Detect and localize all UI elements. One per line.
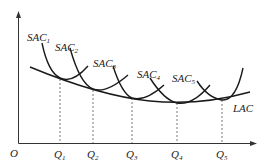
y-axis-arrow-icon (16, 11, 21, 18)
label-sac1: SAC1 (27, 31, 50, 45)
lac-sac-diagram: SAC1 SAC2 SAC3 SAC4 SAC5 LAC O Q1 Q2 Q3 … (0, 0, 266, 167)
x-axis-arrow-icon (250, 141, 257, 146)
quantity-guides (60, 79, 222, 143)
tick-q3: Q3 (126, 148, 138, 162)
tick-q4: Q4 (171, 148, 183, 162)
label-sac2: SAC2 (55, 41, 79, 55)
label-sac4: SAC4 (137, 68, 161, 82)
curve-labels: SAC1 SAC2 SAC3 SAC4 SAC5 LAC (27, 31, 254, 114)
label-lac: LAC (232, 102, 254, 114)
tick-q1: Q1 (54, 148, 65, 162)
diagram-canvas: SAC1 SAC2 SAC3 SAC4 SAC5 LAC O Q1 Q2 Q3 … (0, 0, 266, 167)
tick-q5: Q5 (216, 148, 228, 162)
label-sac3: SAC3 (93, 57, 117, 71)
origin-label: O (10, 147, 18, 159)
tick-q2: Q2 (87, 148, 99, 162)
label-sac5: SAC5 (172, 72, 196, 86)
axis-labels: O Q1 Q2 Q3 Q4 Q5 (10, 147, 228, 162)
